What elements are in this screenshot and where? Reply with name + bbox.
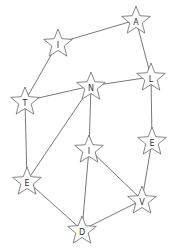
node-i: I <box>44 29 73 56</box>
node-i: I <box>75 135 104 162</box>
node-label: D <box>79 228 85 237</box>
node-label: A <box>133 18 139 27</box>
node-a: A <box>122 6 151 33</box>
node-label: I <box>88 147 90 156</box>
node-label: N <box>88 84 94 93</box>
node-label: L <box>149 75 154 84</box>
node-d: D <box>68 216 97 243</box>
edge-e-d <box>27 181 82 230</box>
node-label: E <box>149 139 154 148</box>
node-label: E <box>24 179 29 188</box>
edge-n-e <box>27 86 91 181</box>
nodes-layer: AITNLEIEVD <box>11 6 167 243</box>
edge-i-v <box>89 149 142 200</box>
node-e: E <box>138 127 167 154</box>
node-label: I <box>57 41 59 50</box>
node-label: T <box>22 99 28 108</box>
node-label: V <box>139 198 145 207</box>
edge-d-v <box>82 200 142 230</box>
star-node-graph: AITNLEIEVD <box>0 0 171 249</box>
